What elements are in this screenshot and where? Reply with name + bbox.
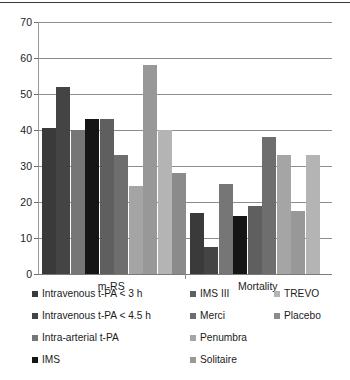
- legend-swatch: [190, 291, 196, 297]
- bar: [190, 213, 204, 274]
- legend-label: IMS III: [200, 289, 229, 299]
- bar: [248, 206, 262, 274]
- bar: [100, 119, 114, 274]
- y-tick-label: 0: [26, 268, 32, 280]
- legend-swatch: [190, 335, 196, 341]
- y-tick-label: 60: [20, 52, 32, 64]
- legend-item[interactable]: Placebo: [274, 311, 321, 321]
- bar: [277, 155, 291, 274]
- plot-area: m-RSMortality: [38, 22, 332, 275]
- chart-legend: Intravenous t-PA < 3 hIntravenous t-PA <…: [0, 283, 350, 378]
- legend-swatch: [32, 313, 38, 319]
- legend-label: TREVO: [284, 289, 319, 299]
- bar: [172, 173, 186, 274]
- legend-swatch: [190, 313, 196, 319]
- legend-swatch: [190, 357, 196, 363]
- y-tick-mark: [34, 58, 38, 59]
- legend-item[interactable]: IMS: [32, 355, 60, 365]
- y-tick-mark: [34, 94, 38, 95]
- y-tick-label: 50: [20, 88, 32, 100]
- legend-label: Intravenous t-PA < 3 h: [42, 289, 142, 299]
- legend-item[interactable]: Intra-arterial t-PA: [32, 333, 119, 343]
- legend-item[interactable]: Merci: [190, 311, 225, 321]
- legend-item[interactable]: IMS III: [190, 289, 229, 299]
- legend-swatch: [32, 291, 38, 297]
- legend-label: Intra-arterial t-PA: [42, 333, 119, 343]
- legend-item[interactable]: Penumbra: [190, 333, 247, 343]
- y-tick-mark: [34, 202, 38, 203]
- y-tick-label: 70: [20, 16, 32, 28]
- legend-swatch: [274, 313, 280, 319]
- legend-label: Placebo: [284, 311, 321, 321]
- bar: [158, 130, 172, 274]
- y-tick-label: 30: [20, 160, 32, 172]
- bar: [71, 130, 85, 274]
- legend-label: Solitaire: [200, 355, 237, 365]
- bar: [204, 247, 218, 274]
- legend-label: Merci: [200, 311, 225, 321]
- bar: [262, 137, 276, 274]
- y-tick-mark: [34, 22, 38, 23]
- legend-swatch: [32, 335, 38, 341]
- bar: [85, 119, 99, 274]
- bar: [114, 155, 128, 274]
- y-tick-mark: [34, 274, 38, 275]
- y-tick-mark: [34, 130, 38, 131]
- legend-item[interactable]: Intravenous t-PA < 3 h: [32, 289, 142, 299]
- bar: [306, 155, 320, 274]
- bar: [129, 186, 143, 274]
- bar: [291, 211, 305, 274]
- bar: [233, 216, 247, 274]
- bar: [42, 128, 56, 274]
- y-tick-label: 20: [20, 196, 32, 208]
- y-tick-label: 40: [20, 124, 32, 136]
- y-tick-label: 10: [20, 232, 32, 244]
- legend-swatch: [274, 291, 280, 297]
- bar: [56, 87, 70, 274]
- legend-item[interactable]: Intravenous t-PA < 4.5 h: [32, 311, 151, 321]
- bars-layer: [39, 22, 332, 274]
- x-axis-tick: [185, 274, 186, 279]
- bar: [143, 65, 157, 274]
- legend-swatch: [32, 357, 38, 363]
- legend-item[interactable]: Solitaire: [190, 355, 237, 365]
- legend-label: IMS: [42, 355, 60, 365]
- top-rule: [0, 2, 350, 3]
- legend-label: Intravenous t-PA < 4.5 h: [42, 311, 151, 321]
- y-axis-labels: 010203040506070: [0, 22, 32, 275]
- legend-item[interactable]: TREVO: [274, 289, 319, 299]
- y-tick-mark: [34, 238, 38, 239]
- bar-chart: 010203040506070 m-RSMortality: [0, 12, 350, 282]
- legend-label: Penumbra: [200, 333, 247, 343]
- y-tick-mark: [34, 166, 38, 167]
- bar: [219, 184, 233, 274]
